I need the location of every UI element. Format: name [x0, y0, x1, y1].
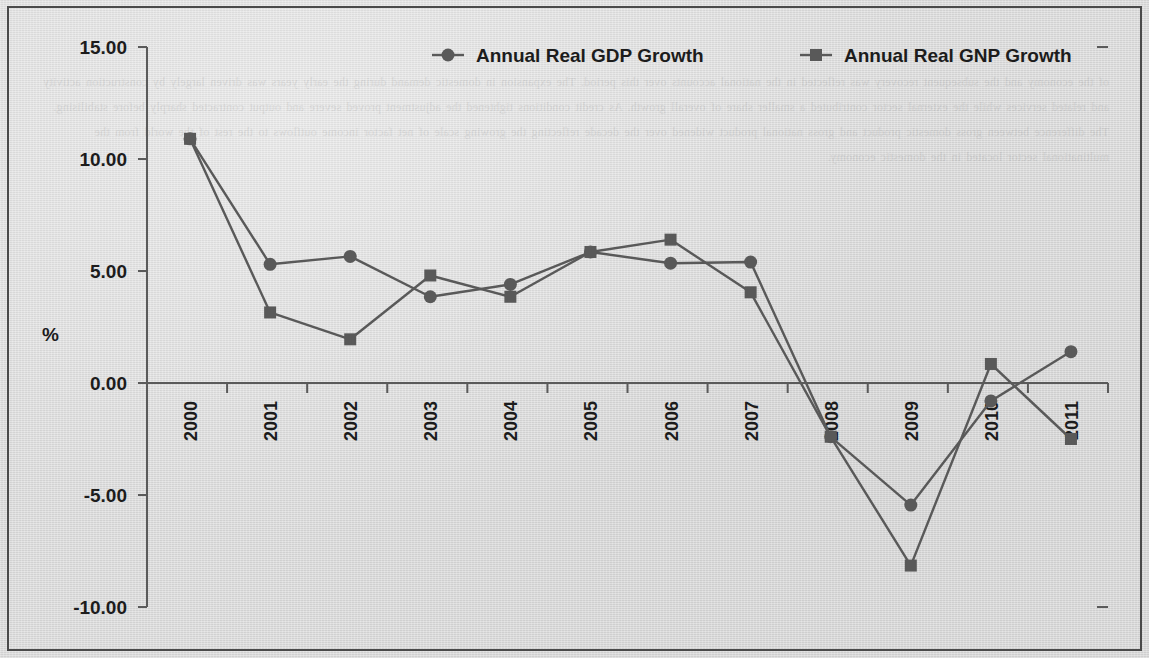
- chart-figure: of the economy and the subsequent recove…: [0, 0, 1149, 658]
- y-tick-label: 0.00: [90, 373, 127, 394]
- x-tick-label: 2000: [181, 401, 201, 441]
- x-tick-label-group: 2000: [181, 401, 201, 441]
- square-marker: [424, 269, 436, 281]
- x-tick-label: 2004: [501, 401, 521, 441]
- line-chart: 15.0010.005.000.00-5.00-10.00%2000200120…: [0, 0, 1149, 658]
- circle-marker: [264, 258, 277, 271]
- circle-marker: [664, 257, 677, 270]
- circle-marker: [1064, 345, 1077, 358]
- x-tick-label-group: 2006: [662, 401, 682, 441]
- x-tick-label-group: 2001: [261, 401, 281, 441]
- circle-marker: [442, 49, 455, 62]
- x-tick-label: 2005: [581, 401, 601, 441]
- series-line-2: [190, 139, 1071, 566]
- legend-item-1[interactable]: Annual Real GDP Growth: [432, 45, 704, 66]
- x-tick-label: 2002: [341, 401, 361, 441]
- x-tick-label: 2007: [742, 401, 762, 441]
- circle-marker: [984, 394, 997, 407]
- x-tick-label-group: 2004: [501, 401, 521, 441]
- square-marker: [745, 286, 757, 298]
- x-tick-label-group: 2007: [742, 401, 762, 441]
- y-tick-label: -10.00: [73, 597, 127, 618]
- y-tick-label: 15.00: [79, 37, 127, 58]
- y-axis-title: %: [42, 324, 59, 345]
- square-marker: [810, 49, 822, 61]
- square-marker: [184, 133, 196, 145]
- circle-marker: [424, 290, 437, 303]
- circle-marker: [344, 250, 357, 263]
- y-tick-label: -5.00: [84, 485, 127, 506]
- square-marker: [985, 358, 997, 370]
- y-tick-label: 10.00: [79, 149, 127, 170]
- square-marker: [584, 246, 596, 258]
- square-marker: [905, 560, 917, 572]
- circle-marker: [904, 499, 917, 512]
- square-marker: [344, 333, 356, 345]
- x-tick-label-group: 2003: [421, 401, 441, 441]
- legend-item-2[interactable]: Annual Real GNP Growth: [800, 45, 1072, 66]
- x-tick-label: 2009: [902, 401, 922, 441]
- circle-marker: [504, 278, 517, 291]
- series-line-1: [190, 139, 1071, 505]
- square-marker: [504, 291, 516, 303]
- x-tick-label: 2006: [662, 401, 682, 441]
- x-tick-label: 2001: [261, 401, 281, 441]
- x-tick-label-group: 2002: [341, 401, 361, 441]
- x-tick-label-group: 2005: [581, 401, 601, 441]
- square-marker: [825, 431, 837, 443]
- x-tick-label-group: 2009: [902, 401, 922, 441]
- circle-marker: [744, 256, 757, 269]
- x-tick-label: 2003: [421, 401, 441, 441]
- square-marker: [1065, 433, 1077, 445]
- legend-label: Annual Real GNP Growth: [844, 45, 1072, 66]
- y-tick-label: 5.00: [90, 261, 127, 282]
- square-marker: [665, 234, 677, 246]
- legend-label: Annual Real GDP Growth: [476, 45, 704, 66]
- square-marker: [264, 306, 276, 318]
